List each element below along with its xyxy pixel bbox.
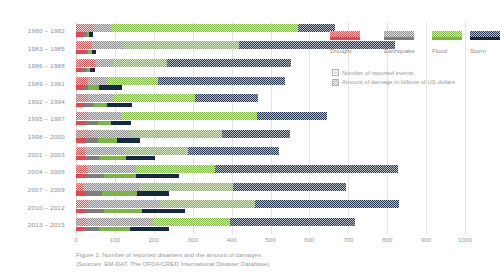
y-tick-label-3: 1989 – 1991 [28,79,65,86]
bar-segment-storm-damage [215,165,398,173]
bar-segment-storm-damage [230,218,354,226]
bar-segment-storm-events [107,103,133,107]
legend-notes: Number of reported eventsAmount of damag… [332,69,455,88]
bar-segment-storm-damage [195,94,257,102]
bar-segment-flood-damage [139,183,232,191]
x-tick-label-400: 400 [226,236,236,243]
bar-segment-earthquake-damage [92,41,122,49]
x-axis-labels: 01002003004005006007008009001000 [76,236,465,248]
bar-segment-earthquake-events [84,227,100,231]
x-tick-label-500: 500 [265,236,275,243]
bar-segment-storm-events [89,32,93,36]
legend-note-key-icon [332,69,339,76]
bar-group [76,130,465,146]
bar-segment-flood-events [98,138,117,142]
bar-segment-drought-events [76,191,85,195]
bar-segment-flood-damage [121,112,257,120]
y-tick-label-2: 1986 – 1988 [28,62,65,69]
bar-segment-flood-events [104,174,136,178]
bar-segment-storm-events [136,174,180,178]
bar-group [76,147,465,163]
legend-label-earthquake: Earthquake [384,48,428,54]
bar-segment-flood-damage [125,147,187,155]
bar-segment-earthquake-events [85,156,99,160]
bar-segment-earthquake-events [85,209,104,213]
bar-segment-flood-damage [113,59,167,67]
bar-segment-drought-events [76,138,86,142]
x-tick-label-800: 800 [382,236,392,243]
legend-note-label: Amount of damage in billions of US dolla… [342,79,455,85]
y-tick-label-6: 1998 – 2000 [28,132,65,139]
x-tick-label-600: 600 [304,236,314,243]
legend-note-key-icon [332,79,339,86]
bar-segment-storm-damage [167,59,291,67]
legend-item-flood[interactable]: Flood [432,31,462,40]
y-tick-label-7: 2001 – 2003 [28,150,65,157]
bar-segment-earthquake-events [84,103,94,107]
bar-segment-flood-events [99,227,129,231]
bar-segment-flood-damage [136,165,216,173]
bar-group [76,218,465,234]
bar-segment-flood-damage [113,94,195,102]
bar-segment-earthquake-damage [94,24,112,32]
bar-segment-earthquake-damage [91,130,130,138]
bar-segment-storm-damage [257,112,327,120]
figure-caption: Figure 1: Number of reported disasters a… [76,250,496,268]
bar-segment-earthquake-events [86,138,98,142]
bar-segment-flood-events [98,121,112,125]
caption-line-2: (Sources: EM-DAT, The OFDA/CRED Internat… [76,259,496,268]
bar-segment-storm-events [142,209,185,213]
y-tick-label-9: 2007 – 2009 [28,185,65,192]
x-tick-label-900: 900 [421,236,431,243]
legend-swatch-damage-storm [470,31,500,37]
bar-segment-flood-events [88,85,98,89]
bar-segment-flood-damage [153,218,230,226]
x-tick-label-1000: 1000 [458,236,472,243]
bar-segment-storm-events [90,68,95,72]
bar-segment-earthquake-damage [88,94,113,102]
legend-item-drought[interactable]: Drought [330,31,360,40]
bar-segment-drought-damage [76,24,94,32]
bar-segment-earthquake-damage [88,77,108,85]
bar-segment-drought-damage [76,130,91,138]
y-tick-label-0: 1980 – 1982 [28,26,65,33]
bar-segment-drought-events [76,227,84,231]
bar-group [76,200,465,216]
legend-item-storm[interactable]: Storm [470,31,500,40]
bar-segment-drought-events [76,209,85,213]
bar-segment-drought-events [76,32,83,36]
bar-segment-storm-events [99,85,122,89]
bar-segment-earthquake-damage [95,59,113,67]
bar-segment-drought-damage [76,147,85,155]
bar-segment-flood-damage [111,24,298,32]
legend-swatches: DroughtEarthquakeFloodStorm [330,31,490,57]
legend-item-earthquake[interactable]: Earthquake [384,31,414,40]
bar-segment-flood-damage [160,200,255,208]
legend-swatch-damage-drought [330,31,360,37]
bar-segment-earthquake-events [86,174,104,178]
bar-segment-storm-events [130,227,169,231]
bar-segment-flood-events [94,103,107,107]
caption-line-1: Figure 1: Number of reported disasters a… [76,250,496,259]
y-tick-label-5: 1995 – 1997 [28,115,65,122]
y-axis-labels: 1980 – 19821983 – 19851986 – 19881989 – … [0,22,74,234]
bar-segment-drought-damage [76,183,83,191]
bar-segment-drought-events [76,156,85,160]
bar-segment-drought-damage [76,218,87,226]
y-tick-label-4: 1992 – 1994 [28,97,65,104]
bar-group [76,94,465,110]
y-tick-label-11: 2013 – 2015 [28,221,65,228]
bar-segment-earthquake-damage [83,183,139,191]
bar-segment-flood-events [99,156,125,160]
bar-segment-storm-damage [188,147,279,155]
legend-note-1: Amount of damage in billions of US dolla… [332,79,455,86]
bar-segment-earthquake-damage [88,200,160,208]
bar-group [76,165,465,181]
legend-swatch-damage-flood [432,31,462,37]
bar-segment-flood-damage [130,130,223,138]
bar-segment-flood-events [104,209,142,213]
bar-segment-flood-events [102,191,138,195]
bar-segment-storm-damage [158,77,284,85]
bar-segment-storm-damage [233,183,346,191]
